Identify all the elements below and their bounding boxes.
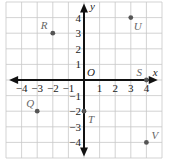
y-tick-label: 2 (76, 43, 82, 55)
x-tick-label: 1 (97, 82, 103, 94)
x-axis-label: x (152, 66, 158, 78)
point-marker (128, 15, 133, 20)
y-axis-arrow-down-icon (80, 147, 88, 156)
point-label: V (151, 129, 159, 141)
point-marker (82, 109, 87, 114)
point-label: Q (26, 97, 34, 109)
y-tick-label: 4 (76, 12, 82, 24)
y-axis-label: y (89, 0, 95, 12)
coordinate-plane: −4−3−2−11234−4−3−2−11234 RUSQTV x y O (0, 0, 172, 167)
point-marker (144, 78, 149, 83)
y-tick-label: −4 (69, 136, 81, 148)
x-tick-label: −3 (31, 82, 43, 94)
point-label: S (136, 66, 142, 78)
point-marker (144, 140, 149, 145)
point-marker (35, 109, 40, 114)
point-label: U (134, 20, 143, 32)
y-tick-label: 1 (76, 58, 82, 70)
x-tick-label: 2 (112, 82, 118, 94)
y-tick-label: −2 (69, 105, 81, 117)
point-label: T (88, 113, 95, 125)
y-tick-label: −1 (69, 90, 81, 102)
x-tick-label: −4 (16, 82, 28, 94)
origin-label: O (87, 66, 95, 78)
y-axis-arrow-up-icon (80, 4, 88, 13)
x-tick-label: 3 (128, 82, 134, 94)
x-tick-label: 4 (144, 82, 150, 94)
x-tick-label: −2 (47, 82, 59, 94)
point-label: R (40, 19, 48, 31)
y-tick-label: −3 (69, 121, 81, 133)
y-tick-label: 3 (76, 27, 82, 39)
point-marker (50, 31, 55, 36)
